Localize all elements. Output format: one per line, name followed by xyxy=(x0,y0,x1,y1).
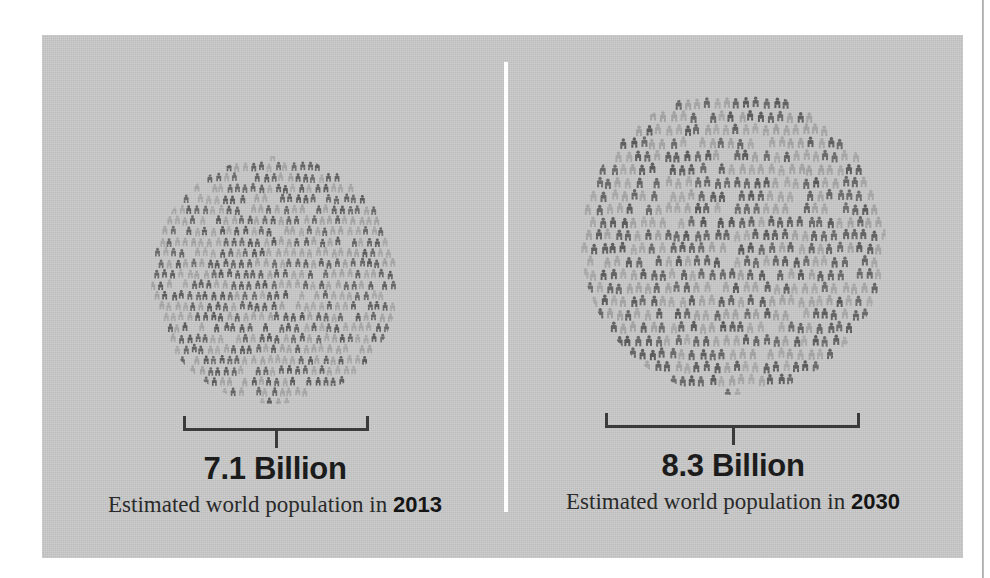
caption-text-2030: Estimated world population in xyxy=(566,489,851,514)
bracket-stem xyxy=(732,425,735,445)
population-circle-2030 xyxy=(581,90,886,395)
caption-year-2013: 2013 xyxy=(393,492,442,517)
measurement-bracket-2030 xyxy=(605,413,860,447)
caption-year-2030: 2030 xyxy=(851,489,900,514)
caption-2013: Estimated world population in 2013 xyxy=(15,491,535,518)
population-circle-2013 xyxy=(151,156,399,404)
bracket-stem xyxy=(275,428,278,448)
vertical-divider xyxy=(504,62,508,512)
headline-2013: 7.1 Billion xyxy=(55,452,495,486)
caption-2030: Estimated world population in 2030 xyxy=(473,488,990,515)
infographic-canvas: 7.1 Billion Estimated world population i… xyxy=(0,0,990,578)
headline-2030: 8.3 Billion xyxy=(513,449,953,483)
measurement-bracket-2013 xyxy=(183,416,369,450)
caption-text-2013: Estimated world population in xyxy=(108,492,393,517)
